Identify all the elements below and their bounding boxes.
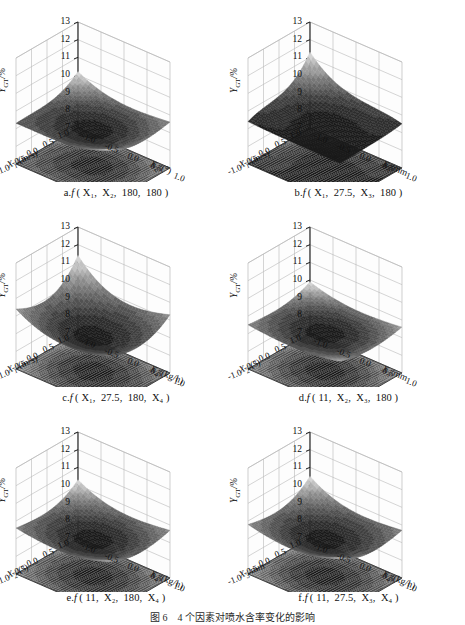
surface-panel-f: 13121110987YGT/%1.00.50.0-0.5-1.01.00.50… [232, 410, 465, 610]
z-tick-label: 8 [286, 514, 302, 524]
z-tick-label: 8 [286, 309, 302, 319]
z-tick-label: 8 [54, 309, 70, 319]
z-tick-label: 10 [54, 274, 70, 284]
z-tick-label: 12 [54, 34, 70, 44]
z-tick-label: 12 [54, 444, 70, 454]
z-tick-label: 9 [54, 87, 70, 97]
z-axis-label: YGT/% [229, 478, 242, 503]
z-tick-label: 10 [286, 479, 302, 489]
surface-panel-c: 13121110987YGT/%1.00.50.0-0.5-1.01.00.50… [0, 205, 232, 410]
z-tick-label: 9 [286, 292, 302, 302]
z-tick-label: 12 [54, 239, 70, 249]
panel-caption-a: a.f ( X₁, X₂, 180, 180 ) [0, 187, 232, 198]
panel-caption-d: d.f ( 11, X₂, X₃, 180 ) [232, 392, 465, 403]
z-tick-label: 13 [54, 221, 70, 231]
z-tick-label: 9 [286, 87, 302, 97]
z-tick-label: 10 [286, 274, 302, 284]
z-tick-label: 10 [54, 479, 70, 489]
figure-caption: 图 6 4 个因素对喷水含率变化的影响 [0, 609, 465, 624]
surface-panel-d: 13121110987YGT/%1.00.50.0-0.5-1.01.00.50… [232, 205, 465, 410]
z-tick-label: 13 [286, 16, 302, 26]
panel-caption-e: e.f ( 11, X₂, 180, X₄ ) [0, 592, 232, 603]
z-axis-label: YGT/% [229, 273, 242, 298]
z-tick-label: 8 [54, 514, 70, 524]
z-tick-label: 13 [286, 426, 302, 436]
figure-root: 13121110987YGT/%1.00.50.0-0.5-1.01.00.50… [0, 0, 465, 625]
z-tick-label: 8 [54, 104, 70, 114]
z-tick-label: 11 [286, 256, 302, 266]
z-axis-label: YGT/% [229, 68, 242, 93]
z-tick-label: 11 [54, 51, 70, 61]
z-tick-label: 13 [54, 426, 70, 436]
z-tick-label: 10 [54, 69, 70, 79]
z-tick-label: 9 [54, 292, 70, 302]
z-tick-label: 11 [54, 256, 70, 266]
z-tick-label: 13 [54, 16, 70, 26]
z-tick-label: 12 [286, 34, 302, 44]
z-axis-label: YGT/% [0, 68, 10, 93]
z-tick-label: 10 [286, 69, 302, 79]
panel-caption-f: f.f ( 11, 27.5, X₃, X₄ ) [232, 592, 465, 603]
z-tick-label: 8 [286, 104, 302, 114]
z-tick-label: 9 [54, 497, 70, 507]
panel-grid: 13121110987YGT/%1.00.50.0-0.5-1.01.00.50… [0, 0, 465, 610]
surface-panel-e: 13121110987YGT/%1.00.50.0-0.5-1.01.00.50… [0, 410, 232, 610]
z-tick-label: 12 [286, 444, 302, 454]
z-tick-label: 12 [286, 239, 302, 249]
z-axis-label: YGT/% [0, 478, 10, 503]
z-tick-label: 11 [286, 51, 302, 61]
surface-panel-a: 13121110987YGT/%1.00.50.0-0.5-1.01.00.50… [0, 0, 232, 205]
z-tick-label: 9 [286, 497, 302, 507]
z-axis-label: YGT/% [0, 273, 10, 298]
z-tick-label: 11 [54, 461, 70, 471]
panel-caption-c: c.f ( X₁, 27.5, 180, X₄ ) [0, 392, 232, 403]
surface-panel-b: 13121110987YGT/%1.00.50.0-0.5-1.01.00.50… [232, 0, 465, 205]
panel-caption-b: b.f ( X₁, 27.5, X₃, 180 ) [232, 187, 465, 198]
z-tick-label: 11 [286, 461, 302, 471]
z-tick-label: 13 [286, 221, 302, 231]
